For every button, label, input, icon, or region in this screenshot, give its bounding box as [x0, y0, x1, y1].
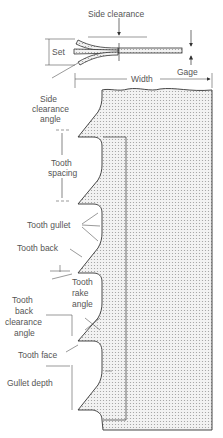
label-tooth-back-clearance-angle-2: back: [15, 306, 33, 316]
label-set: Set: [52, 47, 65, 57]
label-tooth-rake-angle-2: rake: [72, 288, 89, 298]
label-width: Width: [131, 74, 153, 84]
saw-blade-diagram: [0, 0, 223, 438]
label-side-clearance: Side clearance: [88, 9, 144, 19]
label-gage: Gage: [177, 67, 198, 77]
label-tooth-spacing-1: Tooth: [51, 158, 72, 168]
label-tooth-back-clearance-angle-1: Tooth: [12, 295, 33, 305]
label-tooth-back-clearance-angle-4: angle: [14, 328, 35, 338]
label-side-clearance-angle-1: Side: [40, 94, 57, 104]
label-tooth-back-clearance-angle-3: clearance: [5, 317, 42, 327]
label-side-clearance-angle-2: clearance: [32, 104, 69, 114]
label-side-clearance-angle-3: angle: [40, 114, 61, 124]
label-gullet-depth: Gullet depth: [7, 378, 53, 388]
label-tooth-gullet: Tooth gullet: [27, 220, 70, 230]
label-tooth-face: Tooth face: [18, 350, 57, 360]
label-tooth-back: Tooth back: [17, 243, 58, 253]
blade-side-view: [78, 89, 212, 430]
top-view-blade: [45, 18, 191, 78]
label-tooth-spacing-2: spacing: [48, 168, 77, 178]
label-tooth-rake-angle-3: angle: [72, 299, 93, 309]
label-tooth-rake-angle-1: Tooth: [72, 277, 93, 287]
